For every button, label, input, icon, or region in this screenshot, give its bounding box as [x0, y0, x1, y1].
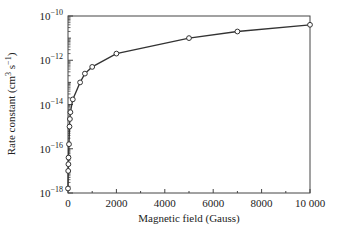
data-line — [68, 25, 310, 189]
data-point — [66, 169, 71, 174]
x-axis-title: Magnetic field (Gauss) — [138, 212, 240, 225]
y-tick-label: 10−18 — [39, 185, 63, 199]
y-tick-label: 10−14 — [39, 97, 63, 111]
data-point — [67, 124, 72, 129]
y-minor-ticks — [68, 17, 286, 193]
plot-frame — [68, 16, 310, 193]
data-point — [66, 162, 71, 167]
x-tick-label: 4000 — [154, 197, 177, 209]
x-tick-labels: 0200040006000800010 000 — [65, 197, 325, 209]
data-point — [308, 22, 313, 27]
data-point — [67, 142, 72, 147]
y-tick-label: 10−12 — [39, 52, 63, 66]
rate-constant-chart: 0200040006000800010 000 10−1010−1210−141… — [0, 0, 337, 243]
x-tick-label: 8000 — [251, 197, 274, 209]
data-markers — [66, 22, 313, 191]
data-point — [68, 117, 73, 122]
y-tick-label: 10−10 — [39, 8, 63, 22]
axis-ticks — [68, 16, 310, 193]
data-point — [187, 36, 192, 41]
data-point — [66, 155, 71, 160]
y-axis-title: Rate constant (cm3 s−1) — [4, 52, 18, 155]
y-tick-labels: 10−1010−1210−1410−1610−18 — [39, 8, 63, 199]
x-tick-label: 2000 — [105, 197, 128, 209]
x-tick-label: 0 — [65, 197, 71, 209]
data-point — [78, 80, 83, 85]
x-tick-label: 10 000 — [295, 197, 326, 209]
data-point — [70, 97, 75, 102]
x-tick-label: 6000 — [202, 197, 225, 209]
data-point — [66, 186, 71, 191]
data-point — [83, 71, 88, 76]
data-point — [90, 65, 95, 70]
data-point — [114, 51, 119, 56]
y-tick-label: 10−16 — [39, 141, 63, 155]
data-point — [68, 110, 73, 115]
data-point — [235, 29, 240, 34]
